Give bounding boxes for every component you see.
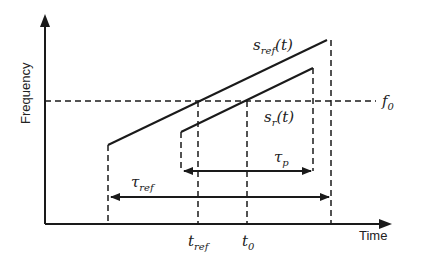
- y-axis-label: Frequency: [18, 62, 33, 124]
- s-ref-chirp-line: [108, 40, 327, 145]
- y-axis-arrow-icon: [40, 14, 50, 27]
- f0-label: f0: [381, 92, 395, 112]
- t0-label: t0: [242, 232, 255, 252]
- t-ref-label: tref: [188, 232, 211, 252]
- s-r-label: sr(t): [264, 108, 294, 128]
- s-ref-label: sref(t): [253, 36, 293, 56]
- chirp-timing-diagram: Time Frequency f0 sref(t) sr(t) τp τref …: [0, 0, 433, 264]
- x-axis-label: Time: [359, 228, 387, 243]
- tau-p-label: τp: [274, 148, 289, 168]
- tau-ref-label: τref: [131, 173, 156, 193]
